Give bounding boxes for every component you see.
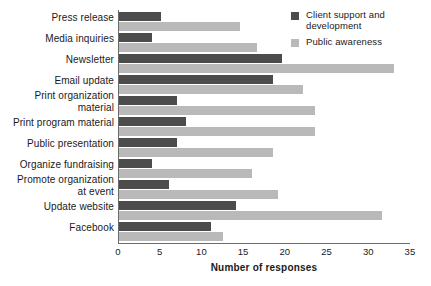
category-label: Facebook <box>2 222 114 234</box>
bar-chart: Client support and development Public aw… <box>0 0 431 286</box>
x-tick-label: 10 <box>196 246 207 257</box>
bar-public-awareness <box>119 232 223 241</box>
bar-client-support <box>119 222 211 231</box>
bar-public-awareness <box>119 43 257 52</box>
category-axis-labels: Press release Media inquiries Newsletter… <box>0 10 114 243</box>
bar-public-awareness <box>119 22 240 31</box>
bar-public-awareness <box>119 211 382 220</box>
x-tick-label: 0 <box>115 246 120 257</box>
bar-public-awareness <box>119 169 252 178</box>
bar-client-support <box>119 54 282 63</box>
bar-client-support <box>119 117 186 126</box>
x-axis-ticks: 0 5 10 15 20 25 30 35 <box>118 246 410 260</box>
bar-client-support <box>119 12 161 21</box>
x-axis-title: Number of responses <box>118 262 410 273</box>
category-label: Print program material <box>2 117 114 129</box>
x-tick-label: 30 <box>363 246 374 257</box>
plot-area <box>118 10 410 243</box>
x-tick-label: 20 <box>280 246 291 257</box>
bar-public-awareness <box>119 190 278 199</box>
bar-client-support <box>119 33 152 42</box>
bar-client-support <box>119 75 273 84</box>
x-axis-line <box>118 243 410 244</box>
category-label: Update website <box>2 201 114 213</box>
category-label: Public presentation <box>2 138 114 150</box>
bar-client-support <box>119 96 177 105</box>
category-label: Promote organization at event <box>2 174 114 197</box>
category-label: Newsletter <box>2 54 114 66</box>
bar-client-support <box>119 159 152 168</box>
category-label: Email update <box>2 75 114 87</box>
bar-client-support <box>119 138 177 147</box>
bar-client-support <box>119 201 236 210</box>
bar-public-awareness <box>119 85 303 94</box>
bar-client-support <box>119 180 169 189</box>
bar-public-awareness <box>119 148 273 157</box>
x-tick-label: 35 <box>405 246 416 257</box>
category-label: Press release <box>2 12 114 24</box>
x-tick-label: 15 <box>238 246 249 257</box>
bar-public-awareness <box>119 106 315 115</box>
x-tick-label: 25 <box>321 246 332 257</box>
category-label: Print organization material <box>2 90 114 113</box>
bar-public-awareness <box>119 127 315 136</box>
category-label: Media inquiries <box>2 33 114 45</box>
bar-public-awareness <box>119 64 394 73</box>
category-label: Organize fundraising <box>2 159 114 171</box>
x-tick-label: 5 <box>157 246 162 257</box>
